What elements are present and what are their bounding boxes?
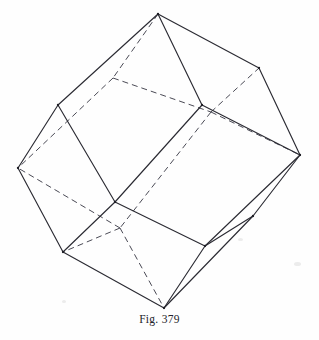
vertex-front-right (204, 245, 206, 247)
hidden-edge-hidden_lower-lower_left (63, 228, 120, 252)
visible-edge-upper_left-front_lower (58, 105, 115, 202)
visible-edge-lower_left-bottom (63, 252, 164, 308)
hidden-edge-hidden_center-upper_right (211, 68, 259, 112)
visible-edge-bottom-lower_right (164, 216, 253, 308)
vertex-top (157, 13, 159, 15)
vertex-front-center (201, 104, 203, 106)
visible-edge-upper_right-right (259, 68, 300, 155)
visible-edge-right-lower_right (253, 155, 300, 216)
vertex-upper-right (258, 67, 260, 69)
hidden-edge-group (18, 14, 300, 308)
vertex-front-lower (114, 201, 116, 203)
visible-edge-bottom-front_right (164, 246, 205, 308)
vertex-bottom (163, 307, 165, 309)
scan-speck (294, 262, 301, 266)
visible-edge-group (18, 14, 300, 308)
hidden-edge-hidden_top-left (18, 78, 113, 168)
vertex-left (17, 167, 19, 169)
vertex-lower-right (252, 215, 254, 217)
vertex-upper-left (57, 104, 59, 106)
scan-speck (62, 300, 66, 303)
visible-edge-top-upper_right (158, 14, 259, 68)
hidden-edge-top-hidden_top (113, 14, 158, 78)
visible-edge-top-front_center (158, 14, 202, 105)
rhombic-dodecahedron-diagram (0, 0, 319, 312)
visible-edge-front_right-right (205, 155, 300, 246)
visible-edge-front_center-right (202, 105, 300, 155)
vertex-lower-left (62, 251, 64, 253)
visible-edge-front_lower-front_right (115, 202, 205, 246)
hidden-edge-hidden_top-hidden_center (113, 78, 211, 112)
visible-edge-left-lower_left (18, 168, 63, 252)
vertex-group (17, 13, 301, 309)
figure-panel: Fig. 379 (0, 0, 319, 340)
scan-speck (238, 238, 243, 241)
visible-edge-front_lower-lower_left (63, 202, 115, 252)
hidden-edge-hidden_lower-left (18, 168, 120, 228)
figure-caption: Fig. 379 (0, 313, 319, 325)
visible-edge-front_center-front_lower (115, 105, 202, 202)
vertex-right (299, 154, 301, 156)
visible-edge-upper_left-left (18, 105, 58, 168)
visible-edge-top-upper_left (58, 14, 158, 105)
